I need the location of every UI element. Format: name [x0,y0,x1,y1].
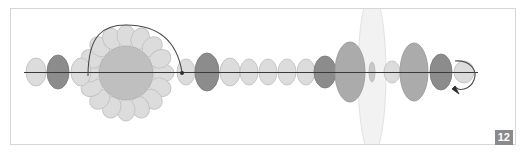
figure-container: 12 [0,0,527,157]
diagram-canvas [0,0,527,157]
curved-loop-arrow-head [452,86,459,94]
figure-number-badge: 12 [495,130,513,145]
arc-endpoint-dot [180,71,184,75]
